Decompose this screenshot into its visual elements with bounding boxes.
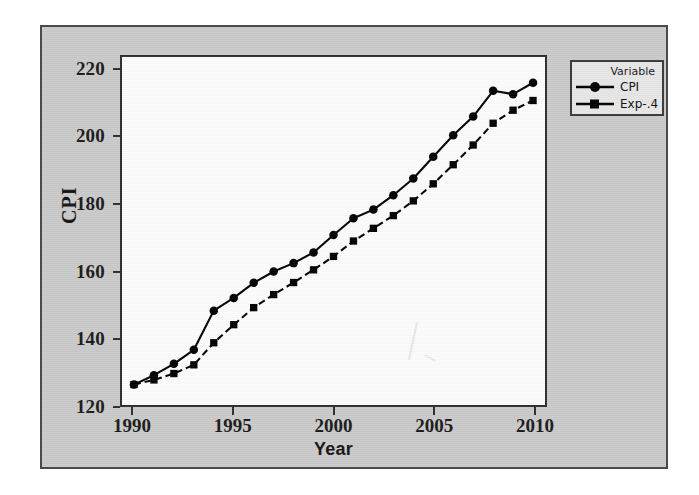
square-marker [430,180,437,187]
y-tick-label: 120 [76,396,105,418]
y-tick-label: 140 [76,328,105,350]
legend-item-exp[interactable]: Exp-.4 [575,95,657,112]
x-tick-mark [333,407,335,415]
y-tick-label: 220 [76,58,105,80]
circle-marker [190,346,199,355]
square-marker [410,197,417,204]
figure-panel: CPI 120140160180200220 19901995200020052… [40,25,668,469]
square-marker [370,225,377,232]
x-tick-label: 1990 [113,415,151,437]
square-marker [230,321,237,328]
square-marker [529,97,536,104]
circle-marker [289,259,298,268]
y-tick-label: 200 [76,125,105,147]
circle-marker [389,191,398,200]
y-tick-mark [113,271,120,273]
circle-marker-icon [575,80,615,94]
x-tick-mark [433,407,435,415]
square-marker [290,279,297,286]
square-marker [250,304,257,311]
x-axis-label: Year [120,439,547,460]
legend-label-cpi: CPI [615,80,639,94]
legend-title: Variable [575,65,657,78]
circle-marker [449,131,458,140]
plot-area [120,55,547,407]
square-marker [450,161,457,168]
square-marker [270,291,277,298]
legend-label-exp: Exp-.4 [615,97,658,111]
circle-marker [409,174,418,183]
circle-marker [509,90,518,99]
chart-page: CPI 120140160180200220 19901995200020052… [0,0,699,495]
square-marker [350,237,357,244]
square-marker-icon [575,97,615,111]
square-marker [190,361,197,368]
square-marker [509,107,516,114]
square-marker [470,141,477,148]
circle-marker [489,87,498,96]
y-tick-label: 180 [76,193,105,215]
circle-marker [429,152,438,161]
circle-marker [369,205,378,214]
x-tick-mark [131,407,133,415]
circle-marker [349,214,358,223]
circle-marker [269,267,278,276]
square-marker [330,253,337,260]
square-marker [130,381,137,388]
y-tick-mark [113,338,120,340]
y-tick-mark [113,135,120,137]
circle-marker [249,279,258,288]
y-tick-mark [113,203,120,205]
circle-marker [529,79,538,88]
legend[interactable]: Variable CPI Exp-.4 [570,60,664,116]
x-tick-mark [534,407,536,415]
x-tick-label: 1995 [214,415,252,437]
circle-marker [210,306,219,315]
circle-marker [329,231,338,240]
square-marker [150,376,157,383]
square-marker [170,370,177,377]
square-marker [210,339,217,346]
circle-marker [170,360,179,369]
legend-item-cpi[interactable]: CPI [575,78,657,95]
x-tick-label: 2000 [315,415,353,437]
x-tick-label: 2010 [516,415,554,437]
circle-marker [309,248,318,257]
x-tick-mark [232,407,234,415]
y-tick-mark [113,406,120,408]
y-tick-mark [113,68,120,70]
square-marker [489,120,496,127]
circle-marker [229,294,238,303]
circle-marker [469,112,478,121]
y-tick-label: 160 [76,261,105,283]
x-tick-label: 2005 [415,415,453,437]
square-marker [310,266,317,273]
series-canvas [122,57,545,405]
square-marker [390,212,397,219]
